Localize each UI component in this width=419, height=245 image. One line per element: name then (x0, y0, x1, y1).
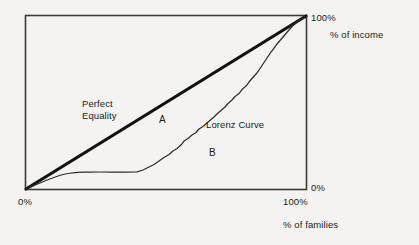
y-axis-title: % of income (330, 29, 383, 41)
x-axis-max-tick: 100% (283, 196, 308, 208)
x-axis-min-tick: 0% (18, 196, 32, 208)
perfect-equality-label: PerfectEquality (82, 98, 117, 121)
perfect-equality-label-line1: Perfect (82, 98, 113, 109)
lorenz-curve-label: Lorenz Curve (206, 119, 264, 131)
y-axis-max-tick: 100% (311, 12, 336, 24)
perfect-equality-label-line2: Equality (82, 110, 117, 121)
lorenz-curve-figure: 100% % of income 0% 0% 100% % of familie… (0, 0, 419, 245)
area-a-label: A (159, 114, 166, 126)
x-axis-title: % of families (283, 219, 338, 231)
area-b-label: B (209, 147, 216, 159)
y-axis-min-tick: 0% (311, 182, 325, 194)
